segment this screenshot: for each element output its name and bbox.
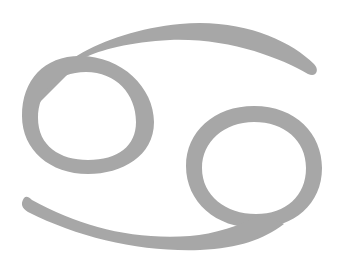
cancer-zodiac-symbol: Cancer zodiac symbol bbox=[0, 0, 342, 269]
cancer-icon bbox=[0, 0, 342, 269]
right-ring bbox=[186, 106, 322, 228]
bottom-arc bbox=[22, 197, 284, 251]
left-ring bbox=[22, 56, 154, 174]
